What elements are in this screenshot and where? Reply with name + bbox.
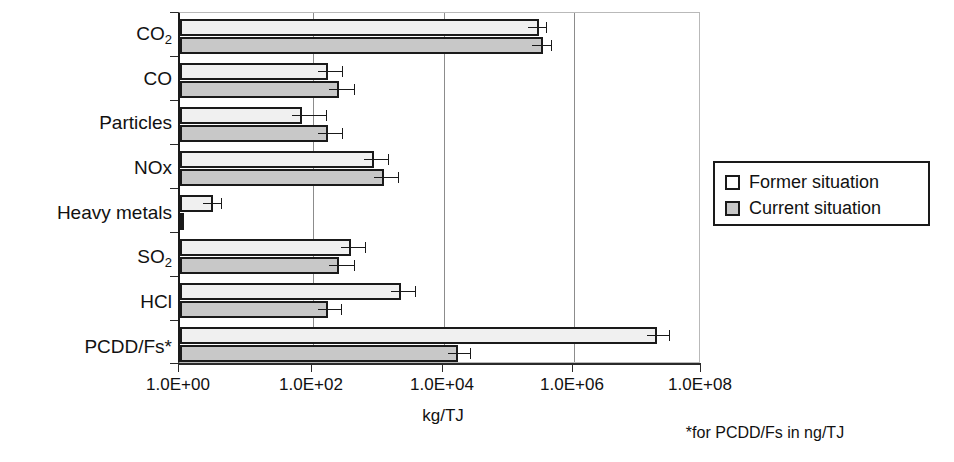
y-label-particles: Particles (99, 113, 172, 132)
x-ticklabel-1e04: 1.0E+04 (410, 376, 474, 393)
errorcap-co-current (354, 84, 355, 95)
x-tick-1e08 (700, 363, 701, 372)
bar-nox-current[interactable] (180, 169, 384, 186)
x-ticklabel-1e00: 1.0E+00 (146, 376, 210, 393)
bar-group-so2 (180, 233, 699, 277)
errorbar-pcddfs-former (647, 335, 669, 336)
chart-figure: CO2 CO Particles NOx Heavy metals SO2 HC… (0, 0, 954, 462)
legend-swatch-former-icon (725, 175, 740, 190)
errorcap-co-former (342, 66, 343, 77)
errorbar-particles-current (318, 133, 342, 134)
y-label-co2: CO2 (136, 24, 172, 45)
bar-group-particles (180, 101, 699, 145)
plot-area (178, 12, 700, 363)
errorbar-hcl-current (318, 309, 341, 310)
y-label-hcl: HCl (140, 292, 172, 311)
x-tick-1e06 (572, 363, 573, 372)
bar-group-nox (180, 145, 699, 189)
errorbar-co-former (318, 71, 342, 72)
bar-group-co (180, 57, 699, 101)
legend-label-former: Former situation (749, 173, 879, 191)
errorcap-so2-current (354, 260, 355, 271)
errorbar-nox-current (374, 177, 398, 178)
y-label-heavy-metals: Heavy metals (57, 203, 172, 222)
errorbar-heavy-metals-former (203, 203, 221, 204)
legend-item-former[interactable]: Former situation (725, 169, 928, 195)
x-ticklabel-1e06: 1.0E+06 (540, 376, 604, 393)
x-tick-1e00 (178, 363, 179, 372)
bar-so2-current[interactable] (180, 257, 339, 274)
errorcap-so2-former (365, 242, 366, 253)
subscript: 2 (165, 32, 172, 47)
bar-particles-former[interactable] (180, 107, 302, 124)
bar-group-hcl (180, 277, 699, 321)
errorcap-co2-former (546, 22, 547, 33)
errorbar-pcddfs-current (448, 353, 470, 354)
bar-hcl-former[interactable] (180, 283, 401, 300)
x-ticklabel-1e08: 1.0E+08 (668, 376, 732, 393)
errorcap-nox-former (388, 154, 389, 165)
bar-pcddfs-former[interactable] (180, 327, 657, 344)
errorbar-so2-current (329, 265, 354, 266)
x-ticklabel-1e02: 1.0E+02 (279, 376, 343, 393)
subscript: 2 (165, 255, 172, 270)
errorcap-particles-former (326, 110, 327, 121)
x-tick-1e04 (442, 363, 443, 372)
bar-particles-current[interactable] (180, 125, 328, 142)
legend-box: Former situation Current situation (713, 161, 930, 226)
errorcap-co2-current (551, 40, 552, 51)
bar-so2-former[interactable] (180, 239, 351, 256)
bar-co2-current[interactable] (180, 37, 543, 54)
bar-co-current[interactable] (180, 81, 339, 98)
y-axis-labels: CO2 CO Particles NOx Heavy metals SO2 HC… (0, 0, 172, 366)
errorbar-co2-current (532, 45, 551, 46)
errorbar-particles-former (292, 115, 326, 116)
bar-pcddfs-current[interactable] (180, 345, 458, 362)
y-label-so2: SO2 (137, 247, 172, 268)
legend-label-current: Current situation (749, 199, 881, 217)
bar-hcl-current[interactable] (180, 301, 328, 318)
x-axis-line (178, 363, 701, 365)
errorbar-co2-former (528, 27, 546, 28)
y-label-nox: NOx (134, 158, 172, 177)
x-axis-title: kg/TJ (422, 406, 464, 426)
footnote-text: *for PCDD/Fs in ng/TJ (686, 424, 844, 442)
legend-swatch-current-icon (725, 201, 740, 216)
errorcap-heavy-metals-former (221, 198, 222, 209)
errorcap-heavy-metals-current (183, 216, 184, 227)
bar-co2-former[interactable] (180, 19, 539, 36)
errorbar-so2-former (341, 247, 365, 248)
bar-nox-former[interactable] (180, 151, 374, 168)
errorcap-hcl-former (415, 286, 416, 297)
errorbar-co-current (329, 89, 354, 90)
bar-group-co2 (180, 13, 699, 57)
errorcap-nox-current (398, 172, 399, 183)
bar-co-former[interactable] (180, 63, 328, 80)
errorcap-particles-current (342, 128, 343, 139)
errorbar-nox-former (364, 159, 388, 160)
errorbar-hcl-former (391, 291, 415, 292)
errorcap-pcddfs-current (470, 348, 471, 359)
errorcap-hcl-current (341, 304, 342, 315)
errorcap-pcddfs-former (669, 330, 670, 341)
x-tick-1e02 (311, 363, 312, 372)
legend-item-current[interactable]: Current situation (725, 195, 928, 221)
y-label-co: CO (144, 69, 173, 88)
bar-group-heavy-metals (180, 189, 699, 233)
y-label-pcddfs: PCDD/Fs* (84, 337, 172, 356)
bar-group-pcddfs (180, 321, 699, 365)
